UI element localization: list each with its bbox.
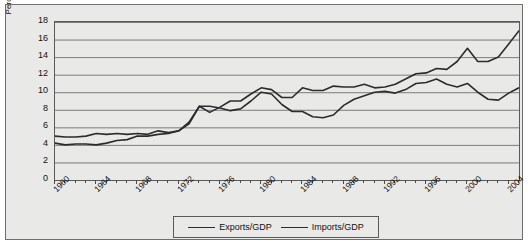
x-tick-mark bbox=[209, 180, 210, 183]
x-tick-mark bbox=[157, 180, 158, 183]
plot-area bbox=[54, 21, 520, 181]
chart-canvas bbox=[55, 22, 519, 180]
y-tick-label: 4 bbox=[26, 139, 48, 148]
y-tick-label: 18 bbox=[26, 16, 48, 25]
y-tick-label: 14 bbox=[26, 51, 48, 60]
x-tick-mark bbox=[126, 180, 127, 183]
x-tick-mark bbox=[240, 180, 241, 183]
x-tick-mark bbox=[322, 180, 323, 183]
y-tick-label: 16 bbox=[26, 34, 48, 43]
legend-label-imports: Imports/GDP bbox=[312, 222, 364, 232]
x-tick-mark bbox=[332, 180, 333, 183]
y-tick-label: 6 bbox=[26, 121, 48, 130]
chart-screenshot: Percentage of GDP 024681012141618 196019… bbox=[0, 0, 532, 246]
legend-line-icon bbox=[281, 227, 308, 228]
x-tick-mark bbox=[281, 180, 282, 183]
x-tick-mark bbox=[446, 180, 447, 183]
x-tick-mark bbox=[415, 180, 416, 183]
legend-label-exports: Exports/GDP bbox=[219, 222, 272, 232]
y-axis-title: Percentage of GDP bbox=[4, 0, 18, 39]
x-tick-mark bbox=[250, 180, 251, 183]
x-tick-mark bbox=[497, 180, 498, 183]
series-line-exports-gdp bbox=[55, 79, 519, 137]
x-tick-mark bbox=[456, 180, 457, 183]
y-tick-label: 8 bbox=[26, 104, 48, 113]
chart-outer-frame: Percentage of GDP 024681012141618 196019… bbox=[5, 4, 523, 240]
legend-item-imports: Imports/GDP bbox=[281, 222, 364, 232]
x-tick-mark bbox=[487, 180, 488, 183]
x-tick-mark bbox=[363, 180, 364, 183]
legend-line-icon bbox=[188, 227, 215, 228]
x-tick-mark bbox=[374, 180, 375, 183]
y-tick-label: 12 bbox=[26, 69, 48, 78]
x-tick-mark bbox=[85, 180, 86, 183]
y-tick-label: 10 bbox=[26, 86, 48, 95]
x-tick-mark bbox=[405, 180, 406, 183]
legend-item-exports: Exports/GDP bbox=[188, 222, 272, 232]
y-tick-label: 0 bbox=[26, 174, 48, 183]
gridlines bbox=[55, 23, 519, 181]
x-tick-mark bbox=[198, 180, 199, 183]
x-tick-mark bbox=[167, 180, 168, 183]
x-tick-mark bbox=[291, 180, 292, 183]
x-tick-mark bbox=[75, 180, 76, 183]
x-tick-mark bbox=[116, 180, 117, 183]
y-tick-label: 2 bbox=[26, 156, 48, 165]
chart-legend: Exports/GDP Imports/GDP bbox=[173, 216, 379, 238]
